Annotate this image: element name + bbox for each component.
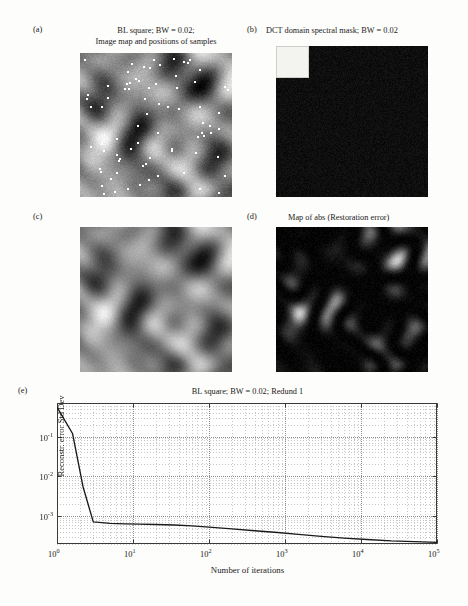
panel-a-letter: (a) bbox=[33, 25, 42, 34]
plot-y-tick: 10-1 bbox=[32, 431, 53, 443]
plot-y-tick: 10-2 bbox=[32, 470, 53, 482]
panel-a-title-line2: Image map and positions of samples bbox=[47, 36, 265, 47]
convergence-plot: Reconstr. error Std Dev Number of iterat… bbox=[57, 403, 438, 545]
panel-d-title: Map of abs (Restoration error) bbox=[288, 212, 389, 223]
plot-x-axis-label: Number of iterations bbox=[57, 565, 438, 575]
panel-d-image bbox=[276, 227, 428, 372]
panel-b-title: DCT domain spectral mask; BW = 0.02 bbox=[266, 25, 398, 36]
panel-c-letter: (c) bbox=[33, 212, 42, 221]
plot-x-tick: 102 bbox=[200, 547, 211, 559]
plot-x-tick: 101 bbox=[124, 547, 135, 559]
plot-y-tick: 10-3 bbox=[32, 510, 53, 522]
panel-b-image bbox=[276, 46, 428, 197]
figure-root: (a) BL square; BW = 0.02; Image map and … bbox=[0, 0, 468, 606]
plot-x-tick: 105 bbox=[428, 547, 439, 559]
panel-e-letter: (e) bbox=[18, 386, 27, 395]
panel-b-letter: (b) bbox=[247, 25, 257, 34]
panel-a-image bbox=[80, 53, 232, 197]
panel-e-title: BL square; BW = 0.02; Redund 1 bbox=[57, 386, 438, 397]
panel-c-image bbox=[80, 227, 232, 372]
plot-x-tick: 103 bbox=[276, 547, 287, 559]
panel-a-title-line1: BL square; BW = 0.02; bbox=[80, 25, 232, 36]
plot-x-tick: 100 bbox=[48, 547, 59, 559]
plot-y-axis-label: Reconstr. error Std Dev bbox=[56, 376, 66, 496]
plot-x-tick: 104 bbox=[352, 547, 363, 559]
panel-d-letter: (d) bbox=[247, 212, 257, 221]
